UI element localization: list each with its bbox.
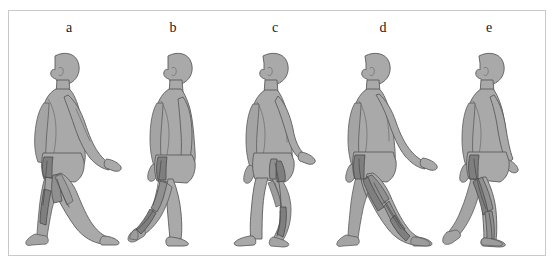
body-silhouette-c [234,53,315,247]
walking-figure-c-illustration [223,49,327,249]
panel-label-d: d [380,21,387,37]
muscle-hip-flexor-c [269,159,277,179]
panel-label-e: e [486,21,492,37]
panel-label-b: b [170,21,177,37]
figure-border-frame: a [8,10,546,256]
figure-panel-e: e [439,11,539,255]
muscle-heel-b [130,230,138,240]
walking-figure-e-illustration [439,49,539,249]
walking-figure-d-illustration [327,49,439,249]
panel-row: a [9,11,545,255]
body-silhouette-b [128,53,195,246]
body-silhouette-d [337,53,437,246]
muscle-foot-dorsum-d [411,237,430,246]
figure-panel-c: c [223,11,327,255]
muscle-hip-flexor-a [43,157,54,178]
figure-panel-a: a [15,11,123,255]
panel-label-c: c [272,21,278,37]
muscle-hip-flexor-b [157,157,168,180]
body-silhouette-e [443,53,518,247]
walking-figure-a-illustration [15,49,123,249]
panel-illustration-d [327,37,439,255]
panel-label-a: a [66,21,72,37]
figure-panel-d: d [327,11,439,255]
figure-panel-b: b [123,11,223,255]
panel-illustration-b [123,37,223,255]
muscle-hip-flexor-e [469,155,480,179]
panel-illustration-a [15,37,123,255]
walking-figure-b-illustration [123,49,223,249]
panel-illustration-c [223,37,327,255]
panel-illustration-e [439,37,539,255]
